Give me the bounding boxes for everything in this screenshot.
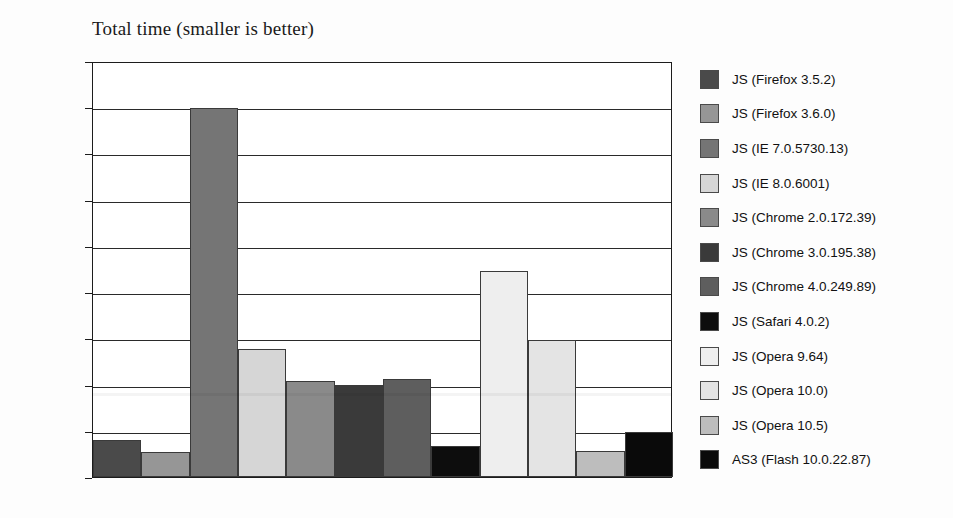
bar: [431, 446, 479, 477]
legend-item: JS (Opera 9.64): [700, 339, 953, 374]
y-axis-tick-mark: [85, 478, 92, 479]
legend-label: JS (Firefox 3.5.2): [732, 72, 836, 87]
y-axis-tick-mark: [85, 339, 92, 340]
bar: [238, 349, 286, 477]
bar-series: [93, 63, 671, 477]
legend-item: AS3 (Flash 10.0.22.87): [700, 443, 953, 478]
chart-title: Total time (smaller is better): [92, 18, 314, 40]
legend-swatch: [700, 347, 719, 366]
y-axis-tick-mark: [85, 154, 92, 155]
legend-swatch: [700, 277, 719, 296]
bar: [383, 379, 431, 477]
bar: [625, 432, 673, 477]
legend-item: JS (Opera 10.5): [700, 408, 953, 443]
legend-swatch: [700, 139, 719, 158]
y-axis-tick-mark: [85, 293, 92, 294]
y-axis-tick-mark: [85, 201, 92, 202]
legend-swatch: [700, 450, 719, 469]
y-axis-tick-mark: [85, 62, 92, 63]
legend-label: JS (Safari 4.0.2): [732, 314, 830, 329]
bar: [93, 440, 141, 477]
bar: [141, 452, 189, 477]
bar: [528, 340, 576, 477]
bar: [286, 381, 334, 477]
legend-label: JS (Chrome 4.0.249.89): [732, 279, 876, 294]
legend-swatch: [700, 381, 719, 400]
y-axis-tick-mark: [85, 108, 92, 109]
legend-item: JS (Chrome 3.0.195.38): [700, 235, 953, 270]
legend-label: JS (Opera 9.64): [732, 349, 828, 364]
legend-label: AS3 (Flash 10.0.22.87): [732, 452, 871, 467]
legend-label: JS (IE 7.0.5730.13): [732, 141, 848, 156]
y-axis-tick-mark: [85, 386, 92, 387]
legend-item: JS (Firefox 3.6.0): [700, 97, 953, 132]
legend-item: JS (Chrome 4.0.249.89): [700, 270, 953, 305]
bar: [576, 451, 624, 477]
bar: [335, 385, 383, 477]
legend-label: JS (Opera 10.0): [732, 383, 828, 398]
y-axis-tick-mark: [85, 247, 92, 248]
legend-label: JS (IE 8.0.6001): [732, 176, 830, 191]
legend-label: JS (Chrome 2.0.172.39): [732, 210, 876, 225]
bar: [480, 271, 528, 477]
legend-swatch: [700, 208, 719, 227]
bar: [190, 108, 238, 477]
legend-label: JS (Firefox 3.6.0): [732, 106, 836, 121]
legend-swatch: [700, 174, 719, 193]
y-axis-tick-mark: [85, 432, 92, 433]
legend-swatch: [700, 243, 719, 262]
plot-area: [92, 62, 672, 478]
legend-item: JS (IE 8.0.6001): [700, 166, 953, 201]
legend-swatch: [700, 312, 719, 331]
legend-swatch: [700, 416, 719, 435]
legend-item: JS (Opera 10.0): [700, 373, 953, 408]
chart-figure: Total time (smaller is better) 050010001…: [0, 0, 953, 518]
legend-label: JS (Opera 10.5): [732, 418, 828, 433]
legend-swatch: [700, 104, 719, 123]
legend-item: JS (Chrome 2.0.172.39): [700, 200, 953, 235]
legend-item: JS (Firefox 3.5.2): [700, 62, 953, 97]
legend-item: JS (Safari 4.0.2): [700, 304, 953, 339]
legend-label: JS (Chrome 3.0.195.38): [732, 245, 876, 260]
y-axis: 050010001500200025003000350040004500: [0, 0, 92, 518]
legend-swatch: [700, 70, 719, 89]
chart-legend: JS (Firefox 3.5.2)JS (Firefox 3.6.0)JS (…: [700, 62, 953, 477]
legend-item: JS (IE 7.0.5730.13): [700, 131, 953, 166]
